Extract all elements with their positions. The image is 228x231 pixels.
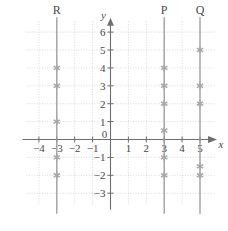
data-point-marker-r — [54, 154, 60, 161]
line-label-r: R — [53, 3, 61, 17]
grid-lines — [26, 21, 216, 205]
y-axis-tick-label: −2 — [94, 169, 106, 181]
x-axis-tick-label: 4 — [179, 142, 185, 154]
data-point-marker-q — [197, 82, 203, 89]
x-axis-tick-label: −4 — [33, 142, 45, 154]
plot-area: −4−3−2−1012345−3−2−1123456xyRPQ — [0, 0, 228, 231]
line-label-p: P — [161, 3, 168, 17]
y-axis-tick-label: 3 — [100, 80, 106, 92]
y-axis-label: y — [100, 9, 106, 21]
x-axis-tick-label: 2 — [144, 142, 150, 154]
x-axis-arrow-icon — [208, 136, 217, 143]
data-point-marker-p — [161, 127, 167, 134]
x-axis-tick-label: 1 — [126, 142, 132, 154]
data-point-marker-q — [197, 46, 203, 53]
y-axis-tick-label: 6 — [100, 26, 106, 38]
axis-ticks — [39, 32, 200, 193]
series-p: P — [161, 3, 168, 213]
data-point-marker-r — [54, 118, 60, 125]
y-axis-tick-label: −3 — [94, 187, 106, 199]
data-point-marker-r — [54, 64, 60, 71]
x-axis-tick-label: 0 — [102, 128, 108, 140]
data-point-marker-r — [54, 172, 60, 179]
series-q: Q — [196, 3, 205, 213]
data-point-marker-q — [197, 100, 203, 107]
axes — [22, 18, 217, 210]
data-point-marker-q — [197, 163, 203, 170]
y-axis-tick-label: 5 — [100, 44, 106, 56]
line-label-q: Q — [196, 3, 205, 17]
x-axis-tick-label: −2 — [69, 142, 81, 154]
series-r: R — [53, 3, 61, 213]
axis-tick-labels: −4−3−2−1012345−3−2−1123456 — [33, 26, 203, 199]
data-point-marker-r — [54, 82, 60, 89]
x-axis-label: x — [218, 138, 224, 150]
data-point-marker-q — [197, 172, 203, 179]
coordinate-plane-chart: −4−3−2−1012345−3−2−1123456xyRPQ — [0, 0, 228, 231]
y-axis-tick-label: −1 — [94, 151, 106, 163]
y-axis-arrow-icon — [107, 18, 114, 26]
y-axis-tick-label: 2 — [100, 98, 106, 110]
y-axis-tick-label: 1 — [100, 116, 106, 128]
y-axis-tick-label: 4 — [100, 62, 106, 74]
